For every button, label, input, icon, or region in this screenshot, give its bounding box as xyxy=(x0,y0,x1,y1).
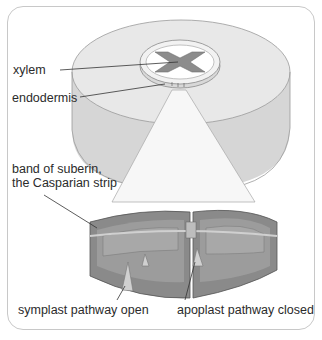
endodermal-cells xyxy=(90,210,277,298)
label-xylem: xylem xyxy=(13,63,46,77)
label-apoplast: apoplast pathway closed xyxy=(177,303,314,317)
casparian-leader xyxy=(44,195,97,228)
label-casparian-line2: the Casparian strip xyxy=(12,176,117,190)
label-casparian-line1: band of suberin, xyxy=(12,162,102,176)
label-endodermis: endodermis xyxy=(12,91,77,105)
label-symplast: symplast pathway open xyxy=(18,303,149,317)
